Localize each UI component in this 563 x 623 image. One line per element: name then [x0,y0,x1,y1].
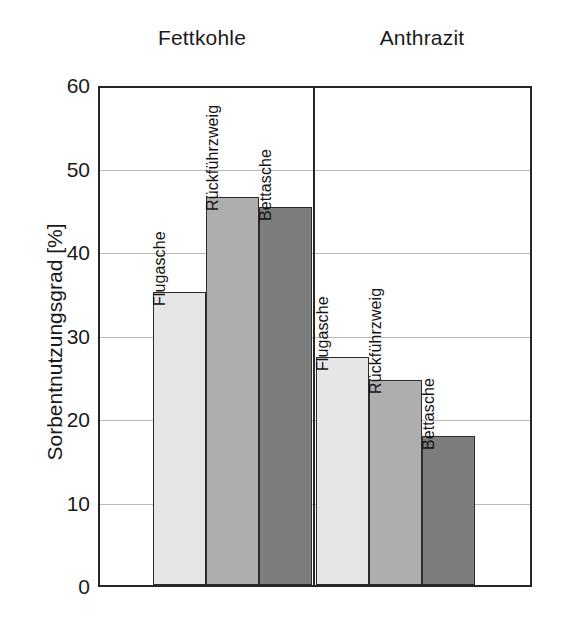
bar-label: Bettasche [257,149,275,221]
y-tick-label: 20 [44,409,90,430]
bar [206,197,259,585]
group-title-fettkohle: Fettkohle [102,26,302,50]
bar [153,292,206,585]
chart-figure: Fettkohle Anthrazit Sorbentnutzungsgrad … [0,0,563,623]
y-tick-label: 10 [44,493,90,514]
bar-label: Rückführzweig [204,104,222,210]
bar [422,436,475,585]
bar [369,380,422,585]
y-tick-label: 60 [44,75,90,96]
bar [316,357,369,585]
bar-label: Flugasche [151,231,169,306]
y-tick-label: 30 [44,326,90,347]
y-axis-tick-labels: 0102030405060 [40,0,90,623]
bar [259,207,312,585]
gridline [100,170,530,171]
bar-label: Rückführzweig [367,288,385,394]
y-tick-label: 40 [44,242,90,263]
y-tick-label: 50 [44,159,90,180]
plot-area: FlugascheRückführzweigBettascheFlugasche… [98,86,532,587]
group-title-anthrazit: Anthrazit [322,26,522,50]
bar-label: Bettasche [420,378,438,450]
bar-label: Flugasche [314,296,332,371]
y-tick-label: 0 [44,576,90,597]
